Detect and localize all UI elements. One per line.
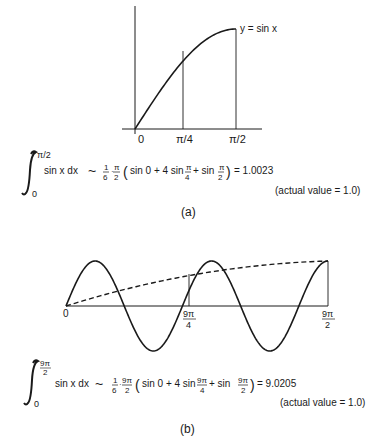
h-num: π	[114, 163, 120, 172]
caption-a: (a)	[181, 205, 196, 219]
h-den: 2	[114, 173, 119, 182]
term1: sin 0 + 4 sin	[142, 378, 196, 389]
caption-b: (b)	[180, 422, 195, 436]
tick-0: 0	[63, 308, 69, 319]
tick-9pi-den-4: 4	[186, 320, 191, 330]
frac1-den: 4	[185, 173, 190, 182]
approx-sign: ~	[88, 163, 96, 179]
open-paren: (	[135, 377, 140, 393]
frac2-den: 2	[218, 173, 223, 182]
close-paren: )	[226, 164, 231, 180]
h-den: 2	[125, 386, 130, 395]
coef-num: 1	[104, 163, 109, 172]
upper-limit: π/2	[37, 150, 51, 160]
sine-curve	[135, 29, 236, 129]
lower-limit: 0	[32, 189, 37, 199]
term2: + sin	[193, 165, 214, 176]
tick-9pi-num-2: 9π	[322, 309, 333, 319]
h-num: 9π	[122, 376, 132, 385]
frac1-den: 4	[200, 386, 205, 395]
approx-sign: ~	[95, 376, 103, 392]
figure-a-formula: π/2 0 sin x dx ~ 1 6 · π 2 ( sin 0 + 4 s…	[22, 150, 360, 219]
figure-canvas: y = sin x 0 π/4 π/2 π/2 0 sin x dx ~ 1 6…	[0, 0, 389, 447]
tick-9pi-num: 9π	[183, 309, 194, 319]
term2: + sin	[209, 378, 230, 389]
actual-value: (actual value = 1.0)	[275, 185, 360, 196]
coef-den: 6	[112, 386, 117, 395]
integrand: sin x dx	[55, 378, 89, 389]
frac2-num: 9π	[238, 376, 248, 385]
term1: sin 0 + 4 sin	[130, 165, 184, 176]
upper-limit-den: 2	[43, 368, 48, 377]
lower-limit: 0	[34, 399, 39, 409]
tick-pi-over-4: π/4	[176, 133, 193, 145]
figure-b-plot: 0 9π 4 9π 2	[63, 261, 335, 351]
result: = 9.0205	[257, 378, 297, 389]
integrand: sin x dx	[44, 165, 78, 176]
coef-den: 6	[103, 173, 108, 182]
tick-0: 0	[138, 133, 144, 145]
frac1-num: π	[186, 163, 192, 172]
close-paren: )	[250, 377, 255, 393]
coef-num: 1	[113, 376, 118, 385]
figure-a-plot: y = sin x 0 π/4 π/2	[122, 6, 277, 145]
result: = 1.0023	[234, 165, 274, 176]
frac2-num: π	[219, 163, 225, 172]
integral-sign	[24, 360, 38, 404]
open-paren: (	[123, 164, 128, 180]
tick-pi-over-2: π/2	[229, 133, 246, 145]
tick-9pi-den-2: 2	[325, 320, 330, 330]
actual-value: (actual value = 1.0)	[280, 397, 365, 408]
figure-b-formula: 9π 2 0 sin x dx ~ 1 6 · 9π 2 ( sin 0 + 4…	[24, 359, 365, 436]
upper-limit-num: 9π	[40, 359, 50, 368]
frac2-den: 2	[241, 386, 246, 395]
curve-label: y = sin x	[240, 23, 277, 34]
frac1-num: 9π	[197, 376, 207, 385]
